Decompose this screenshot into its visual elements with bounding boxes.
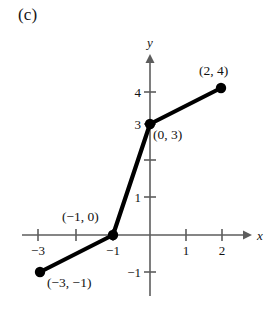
x-tick-label-neg1: −1 [106,244,120,257]
figure-panel-c: (c) x y −3 −1 1 2 −1 1 [0,0,276,319]
x-tick-label-2: 2 [219,244,226,257]
x-axis-arrow-icon [243,231,252,240]
data-point-neg1-0 [108,230,118,240]
x-axis-label: x [257,229,263,242]
y-tick-label-1: 1 [135,191,142,204]
annotation-point-0-3: (0, 3) [153,128,182,142]
y-axis-label: y [147,36,153,49]
y-tick-label-4: 4 [135,86,142,99]
annotation-point-2-4: (2, 4) [199,64,228,78]
annotation-point-neg3-neg1: (−3, −1) [47,276,91,290]
annotation-point-neg1-0: (−1, 0) [62,210,99,224]
data-point-neg3-neg1 [35,267,45,277]
data-line-piecewise [40,88,221,272]
y-tick-label-3: 3 [135,118,142,131]
x-tick-label-neg3: −3 [31,244,45,257]
data-point-2-4 [216,83,226,93]
y-tick-label-neg1: −1 [127,266,141,279]
x-tick-label-1: 1 [183,244,190,257]
y-axis-arrow-icon [146,54,155,63]
